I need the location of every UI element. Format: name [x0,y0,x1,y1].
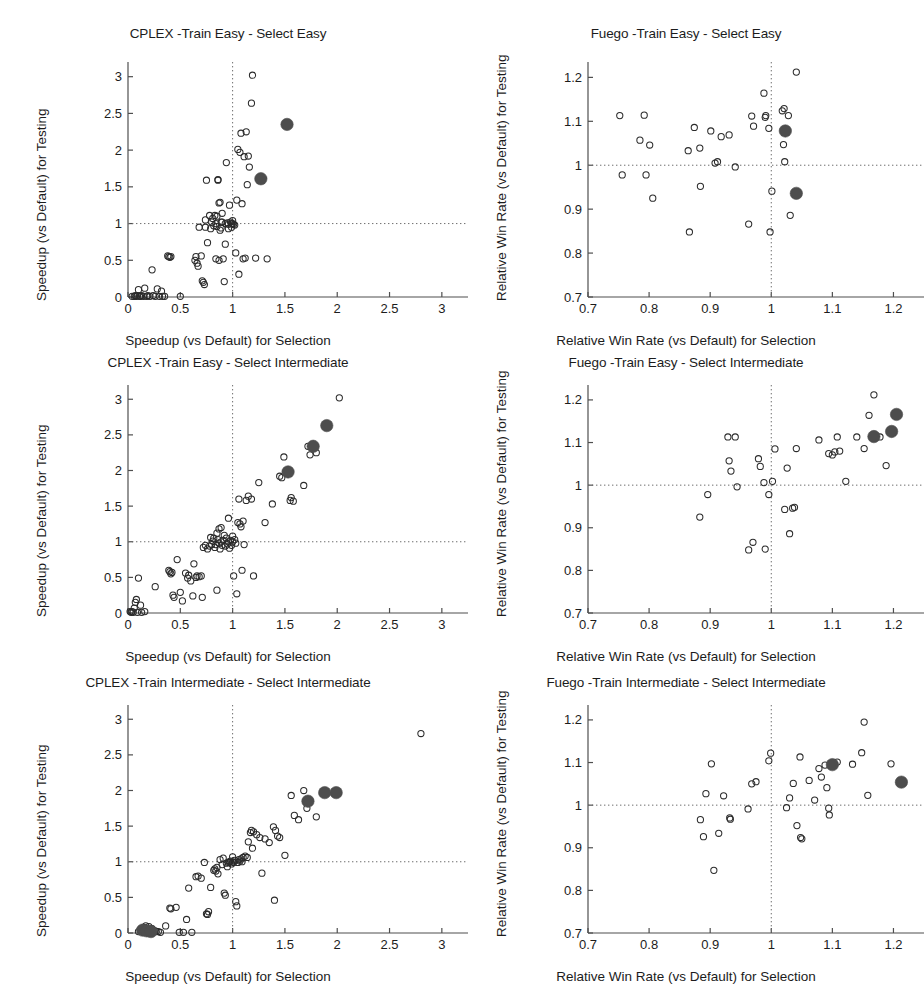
svg-text:1: 1 [115,216,122,231]
plot-area-cplex-train-intermediate-select-intermediate: 00.511.522.5300.511.522.53 [88,705,468,967]
data-point [233,250,239,256]
data-point [152,584,158,590]
data-point [883,462,889,468]
svg-text:2: 2 [115,783,122,798]
series-instances-fuego-train-intermediate-select-intermediate [697,719,894,874]
svg-text:0.9: 0.9 [564,840,582,855]
svg-text:0.7: 0.7 [579,937,597,952]
data-point [135,287,141,293]
data-point [725,434,731,440]
data-point [233,899,239,905]
svg-text:0.9: 0.9 [701,301,719,316]
plot-area-fuego-train-easy-select-easy: 0.70.80.911.11.20.70.80.911.11.2 [548,62,924,331]
data-point [761,90,767,96]
data-point [250,573,256,579]
data-point [619,172,625,178]
data-point-portfolio [282,466,294,478]
data-point [183,916,189,922]
plot-area-fuego-train-intermediate-select-intermediate: 0.70.80.911.11.20.70.80.911.11.2 [548,705,924,967]
data-point [797,754,803,760]
data-point-portfolio [890,408,902,420]
data-point [190,593,196,599]
data-point [189,929,195,935]
data-point-portfolio [321,419,333,431]
data-point [219,210,225,216]
scatter-svg-cplex-train-intermediate-select-intermediate: 00.511.522.5300.511.522.53 [88,705,468,967]
data-point [234,903,240,909]
data-point [271,897,277,903]
svg-text:3: 3 [438,937,445,952]
data-point [826,812,832,818]
panel-title-fuego-train-easy-select-easy: Fuego -Train Easy - Select Easy [466,26,906,41]
data-point-portfolio [868,430,880,442]
data-point [782,506,788,512]
svg-text:0.9: 0.9 [564,520,582,535]
data-point [248,100,254,106]
data-point [849,761,855,767]
data-point [277,834,283,840]
data-point [222,892,228,898]
data-point [703,791,709,797]
data-point [812,797,818,803]
data-point [650,195,656,201]
y-axis-label-fuego-train-easy-select-easy: Relative Win Rate (vs Default) for Testi… [494,54,509,301]
svg-text:3: 3 [438,301,445,316]
data-point [824,785,830,791]
data-point [208,884,214,890]
svg-text:1: 1 [768,617,775,632]
data-point [262,519,268,525]
data-point [711,867,717,873]
data-point [686,229,692,235]
data-point [826,805,832,811]
data-point [186,885,192,891]
scatter-svg-fuego-train-easy-select-intermediate: 0.70.80.911.11.20.70.80.911.11.2 [548,385,924,647]
data-point [787,795,793,801]
svg-text:0.8: 0.8 [564,246,582,261]
data-point [728,468,734,474]
data-point [244,854,250,860]
svg-text:1.1: 1.1 [823,617,841,632]
panel-cplex-train-intermediate-select-intermediate: CPLEX -Train Intermediate - Select Inter… [8,675,448,987]
series-instances-cplex-train-easy-select-intermediate [127,395,342,616]
data-point [253,255,259,261]
svg-text:0.8: 0.8 [640,617,658,632]
x-axis-label-cplex-train-easy-select-intermediate: Speedup (vs Default) for Selection [8,649,448,664]
data-point [757,463,763,469]
series-instances-cplex-train-easy-select-easy [129,72,270,299]
data-point [785,112,791,118]
svg-text:0: 0 [124,617,131,632]
data-point [201,859,207,865]
data-point [834,434,840,440]
svg-text:2: 2 [115,143,122,158]
svg-text:2.5: 2.5 [104,106,122,121]
panel-fuego-train-easy-select-intermediate: Fuego -Train Easy - Select IntermediateR… [466,355,906,667]
svg-text:1.1: 1.1 [823,301,841,316]
data-point [718,134,724,140]
data-point [721,793,727,799]
data-point-portfolio [255,173,267,185]
data-point [761,479,767,485]
panel-cplex-train-easy-select-intermediate: CPLEX -Train Easy - Select IntermediateS… [8,355,448,667]
data-point [871,392,877,398]
plot-area-cplex-train-easy-select-intermediate: 00.511.522.5300.511.522.53 [88,385,468,647]
svg-text:0: 0 [115,290,122,305]
data-point [787,531,793,537]
panel-cplex-train-easy-select-easy: CPLEX -Train Easy - Select EasySpeedup (… [8,26,448,352]
data-point [226,202,232,208]
data-point [288,792,294,798]
x-axis-label-cplex-train-intermediate-select-intermediate: Speedup (vs Default) for Selection [8,969,448,984]
data-point-portfolio [281,118,293,130]
data-point [191,561,197,567]
data-point [246,164,252,170]
data-point [787,212,793,218]
data-point [222,241,228,247]
data-point [641,112,647,118]
data-point [266,839,272,845]
data-point [794,823,800,829]
y-axis-label-cplex-train-intermediate-select-intermediate: Speedup (vs Default) for Testing [34,744,49,937]
svg-text:1: 1 [229,617,236,632]
data-point [179,598,185,604]
data-point-portfolio [790,187,802,199]
svg-text:1: 1 [575,158,582,173]
series-portfolio-fuego-train-intermediate-select-intermediate [826,758,907,788]
